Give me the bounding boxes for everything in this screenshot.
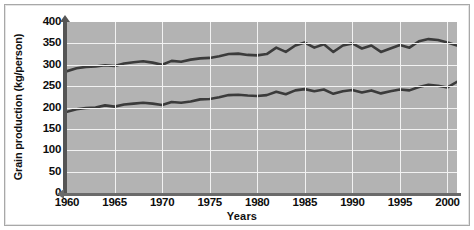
y-tick-label: 400 — [9, 15, 61, 27]
y-tick-label: 250 — [9, 79, 61, 91]
y-tick-label: 100 — [9, 143, 61, 155]
y-tick-label: 50 — [9, 165, 61, 177]
gridline-horizontal — [67, 43, 457, 44]
gridline-horizontal — [67, 129, 457, 130]
gridline-horizontal — [67, 150, 457, 151]
plot-area — [67, 22, 457, 193]
y-tick-label: 350 — [9, 36, 61, 48]
y-tick-label: 200 — [9, 101, 61, 113]
gridline-horizontal — [67, 65, 457, 66]
gridline-horizontal — [67, 86, 457, 87]
y-axis-arrow-icon — [60, 15, 70, 22]
x-tick-label: 2000 — [417, 196, 474, 208]
gridline-horizontal — [67, 172, 457, 173]
gridline-horizontal — [67, 108, 457, 109]
y-tick-label: 300 — [9, 58, 61, 70]
chart-frame: Grain production (kg/person) 40035030025… — [4, 4, 470, 226]
y-tick-label: 150 — [9, 122, 61, 134]
x-axis-title: Years — [5, 210, 474, 222]
